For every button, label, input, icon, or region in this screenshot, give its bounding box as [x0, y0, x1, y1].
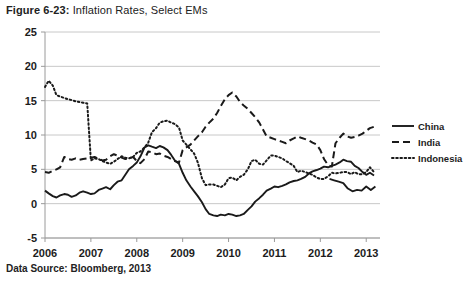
- y-axis-tick-labels: -50510152025: [25, 26, 37, 244]
- series-line-china-tail: [330, 179, 376, 191]
- x-tick-label: 2010: [216, 247, 240, 259]
- x-tick-label: 2009: [170, 247, 194, 259]
- y-tick-label: 15: [25, 95, 37, 107]
- y-tick-label: 25: [25, 26, 37, 38]
- chart-container: -50510152025 200620072008200920102011201…: [0, 22, 475, 260]
- x-tick-label: 2008: [125, 247, 149, 259]
- y-tick-label: 5: [31, 163, 37, 175]
- x-tick-label: 2013: [354, 247, 378, 259]
- x-tick-label: 2011: [263, 247, 287, 259]
- chart-legend: ChinaIndiaIndonesia: [392, 121, 463, 164]
- series-line-india: [45, 92, 374, 172]
- figure-caption: Inflation Rates, Select EMs: [70, 4, 208, 16]
- series-line-indonesia: [45, 81, 374, 187]
- y-tick-label: -5: [27, 232, 37, 244]
- series-line-china: [45, 145, 374, 216]
- figure-number: Figure 6-23:: [6, 4, 70, 16]
- legend-label-indonesia: Indonesia: [418, 153, 463, 164]
- gridlines: [45, 32, 380, 238]
- legend-label-india: India: [418, 137, 441, 148]
- legend-label-china: China: [418, 121, 445, 132]
- page-title: Figure 6-23: Inflation Rates, Select EMs: [6, 4, 207, 16]
- axes: [41, 32, 380, 242]
- x-tick-label: 2012: [308, 247, 332, 259]
- x-tick-label: 2007: [79, 247, 103, 259]
- x-axis-tick-labels: 20062007200820092010201120122013: [33, 247, 379, 259]
- x-tick-label: 2006: [33, 247, 57, 259]
- y-tick-label: 0: [31, 198, 37, 210]
- y-tick-label: 20: [25, 60, 37, 72]
- data-source-note: Data Source: Bloomberg, 2013: [6, 263, 151, 274]
- y-tick-label: 10: [25, 129, 37, 141]
- inflation-line-chart: -50510152025 200620072008200920102011201…: [0, 22, 475, 260]
